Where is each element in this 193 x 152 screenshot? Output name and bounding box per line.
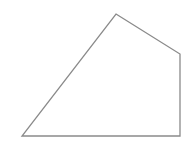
diagram-canvas (0, 0, 193, 152)
quadrilateral-shape (22, 14, 180, 136)
